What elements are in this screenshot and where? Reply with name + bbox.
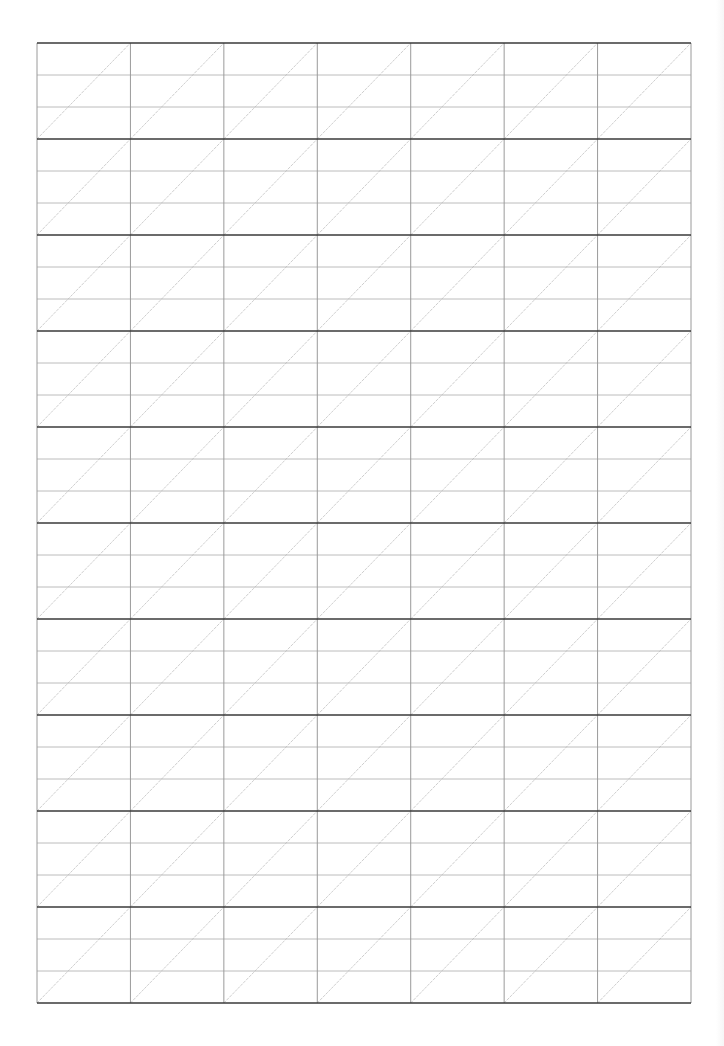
cell-diagonal-line — [224, 811, 317, 907]
cell-diagonal-line — [504, 43, 597, 139]
cell-diagonal-line — [504, 235, 597, 331]
cell-diagonal-line — [317, 139, 410, 235]
cell-diagonal-line — [317, 907, 410, 1003]
cell-diagonal-line — [37, 427, 130, 523]
practice-sheet-page: Handwriting practice grid sheet — [0, 0, 724, 1046]
cell-diagonal-line — [130, 139, 223, 235]
cell-diagonal-line — [411, 43, 504, 139]
cell-diagonal-line — [411, 235, 504, 331]
cell-diagonal-line — [130, 715, 223, 811]
cell-diagonal-line — [37, 331, 130, 427]
cell-diagonal-line — [317, 523, 410, 619]
cell-diagonal-line — [598, 523, 691, 619]
cell-diagonal-line — [224, 619, 317, 715]
cell-diagonal-line — [130, 811, 223, 907]
cell-diagonal-line — [37, 811, 130, 907]
cell-diagonal-line — [504, 139, 597, 235]
cell-diagonal-line — [411, 331, 504, 427]
cell-diagonal-line — [504, 619, 597, 715]
cell-diagonal-line — [598, 715, 691, 811]
cell-diagonal-line — [130, 907, 223, 1003]
cell-diagonal-line — [224, 523, 317, 619]
cell-diagonal-line — [37, 523, 130, 619]
cell-diagonal-line — [224, 139, 317, 235]
cell-diagonal-line — [317, 811, 410, 907]
cell-diagonal-line — [598, 619, 691, 715]
cell-diagonal-line — [598, 331, 691, 427]
cell-diagonal-line — [504, 907, 597, 1003]
cell-diagonal-line — [130, 427, 223, 523]
cell-diagonal-line — [317, 43, 410, 139]
cell-diagonal-line — [224, 43, 317, 139]
cell-diagonal-line — [411, 715, 504, 811]
cell-diagonal-line — [224, 715, 317, 811]
cell-diagonal-line — [317, 619, 410, 715]
cell-diagonal-line — [130, 43, 223, 139]
cell-diagonal-line — [598, 811, 691, 907]
cell-diagonal-line — [224, 235, 317, 331]
cell-diagonal-line — [598, 139, 691, 235]
cell-diagonal-line — [411, 619, 504, 715]
cell-diagonal-line — [411, 139, 504, 235]
cell-diagonal-line — [130, 331, 223, 427]
cell-diagonal-line — [317, 331, 410, 427]
cell-diagonal-line — [598, 43, 691, 139]
cell-diagonal-line — [37, 907, 130, 1003]
cell-diagonal-line — [411, 811, 504, 907]
cell-diagonal-line — [224, 331, 317, 427]
cell-diagonal-line — [37, 235, 130, 331]
cell-diagonal-line — [37, 43, 130, 139]
cell-diagonal-line — [598, 907, 691, 1003]
cell-diagonal-line — [317, 427, 410, 523]
cell-diagonal-line — [504, 331, 597, 427]
cell-diagonal-line — [504, 523, 597, 619]
cell-diagonal-line — [37, 619, 130, 715]
cell-diagonal-line — [317, 235, 410, 331]
cell-diagonal-line — [130, 523, 223, 619]
cell-diagonal-line — [224, 427, 317, 523]
cell-diagonal-line — [598, 427, 691, 523]
cell-diagonal-line — [37, 715, 130, 811]
cell-diagonal-line — [411, 523, 504, 619]
page-edge-shadow — [716, 0, 724, 1046]
cell-diagonal-line — [130, 619, 223, 715]
cell-diagonal-line — [504, 811, 597, 907]
cell-diagonal-line — [598, 235, 691, 331]
cell-diagonal-line — [224, 907, 317, 1003]
cell-diagonal-line — [411, 427, 504, 523]
cell-diagonal-line — [504, 427, 597, 523]
cell-diagonal-line — [504, 715, 597, 811]
cell-diagonal-line — [130, 235, 223, 331]
cell-diagonal-line — [37, 139, 130, 235]
cell-diagonal-line — [411, 907, 504, 1003]
practice-grid — [0, 0, 724, 1046]
cell-diagonal-line — [317, 715, 410, 811]
